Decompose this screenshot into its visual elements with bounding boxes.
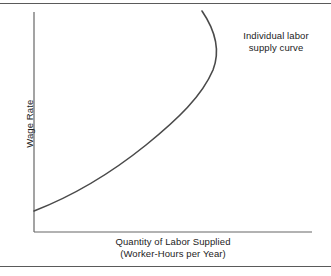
x-axis-label: Quantity of Labor Supplied (Worker-Hours… [34, 236, 312, 259]
figure-container: Wage Rate Quantity of Labor Supplied (Wo… [0, 0, 331, 276]
x-axis-label-line-1: Quantity of Labor Supplied [34, 236, 312, 248]
x-axis-label-line-2: (Worker-Hours per Year) [34, 248, 312, 260]
curve-annotation-line-1: Individual labor [226, 30, 326, 42]
y-axis-label: Wage Rate [24, 84, 36, 164]
labor-supply-curve [34, 11, 217, 211]
curve-annotation-line-2: supply curve [226, 42, 326, 54]
curve-annotation: Individual labor supply curve [226, 30, 326, 54]
